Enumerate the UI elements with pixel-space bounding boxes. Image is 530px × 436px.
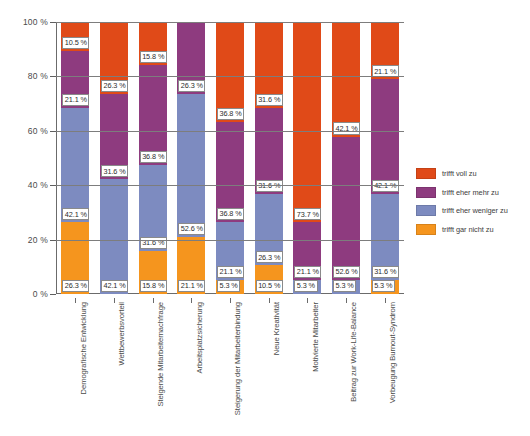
- bar-segment[interactable]: 42.1 %: [61, 108, 89, 223]
- y-tick-mark: [50, 76, 56, 77]
- bar-segment-value-label: 26.3 %: [62, 280, 89, 292]
- bar-segment[interactable]: 31.6 %: [255, 108, 283, 194]
- bar-segment-value-label: 31.6 %: [256, 94, 283, 106]
- bar-segment[interactable]: 31.6 %: [255, 22, 283, 108]
- bar-segment-value-label: 5.3 %: [217, 280, 240, 292]
- bar-segment-value-label: 31.6 %: [101, 165, 128, 177]
- bar-column[interactable]: 42.1 %52.6 %5.3 %: [332, 22, 360, 294]
- bar-segment[interactable]: 10.5 %: [255, 265, 283, 294]
- bar-segment-value-label: 15.8 %: [140, 280, 167, 292]
- bar-segment[interactable]: 36.8 %: [139, 65, 167, 165]
- bar-segment[interactable]: 26.3 %: [61, 222, 89, 294]
- x-axis-labels: Demografische EntwicklungWettbewerbsvort…: [56, 298, 404, 434]
- bars-layer: 10.5 %21.1 %42.1 %26.3 %26.3 %31.6 %42.1…: [56, 22, 404, 294]
- bar-segment-value-label: 10.5 %: [62, 37, 89, 49]
- bar-segment-value-label: 36.8 %: [140, 151, 167, 163]
- bar-segment[interactable]: 5.3 %: [293, 280, 321, 294]
- bar-segment[interactable]: 36.8 %: [216, 122, 244, 222]
- bar-segment-value-label: 21.1 %: [217, 266, 244, 278]
- bar-segment[interactable]: 42.1 %: [100, 179, 128, 294]
- bar-segment[interactable]: 42.1 %: [371, 79, 399, 194]
- bar-segment[interactable]: 21.1 %: [177, 237, 205, 294]
- bar-segment[interactable]: 26.3 %: [177, 22, 205, 94]
- bar-segment-value-label: 52.6 %: [178, 223, 205, 235]
- bar-segment[interactable]: 21.1 %: [371, 22, 399, 79]
- bar-segment[interactable]: 5.3 %: [332, 280, 360, 294]
- bar-segment[interactable]: 73.7 %: [293, 22, 321, 222]
- bar-segment[interactable]: 36.8 %: [216, 22, 244, 122]
- x-axis-category-label: Steigende Mitarbeiternachfrage: [156, 302, 165, 432]
- legend-color-swatch: [416, 168, 436, 179]
- y-axis-tick-label: 0 %: [33, 289, 48, 299]
- bar-segment-value-label: 5.3 %: [294, 280, 317, 292]
- bar-segment[interactable]: 21.1 %: [216, 222, 244, 279]
- bar-segment-value-label: 5.3 %: [333, 280, 356, 292]
- bar-segment[interactable]: 26.3 %: [255, 194, 283, 266]
- y-tick-mark: [50, 240, 56, 241]
- bar-segment[interactable]: 42.1 %: [332, 22, 360, 137]
- bar-segment[interactable]: 52.6 %: [332, 137, 360, 280]
- x-axis-category-label: Neue Kreativität: [272, 302, 281, 432]
- bar-segment[interactable]: 10.5 %: [61, 22, 89, 51]
- bar-segment[interactable]: 26.3 %: [100, 22, 128, 94]
- bar-segment[interactable]: 15.8 %: [139, 251, 167, 294]
- bar-segment-value-label: 31.6 %: [372, 266, 399, 278]
- bar-column[interactable]: 15.8 %36.8 %31.6 %15.8 %: [139, 22, 167, 294]
- bar-segment[interactable]: 31.6 %: [139, 165, 167, 251]
- bar-segment-value-label: 10.5 %: [256, 280, 283, 292]
- bar-segment-value-label: 42.1 %: [101, 280, 128, 292]
- bar-column[interactable]: 31.6 %31.6 %26.3 %10.5 %: [255, 22, 283, 294]
- bar-segment-value-label: 21.1 %: [62, 94, 89, 106]
- y-axis-tick-label: 40 %: [28, 180, 48, 190]
- legend-item[interactable]: trifft voll zu: [416, 168, 526, 179]
- legend-color-swatch: [416, 187, 436, 198]
- x-axis-category-label: Vorbeugung Burnout-Syndrom: [388, 302, 397, 432]
- bar-segment[interactable]: 31.6 %: [371, 194, 399, 280]
- bar-segment-value-label: 26.3 %: [101, 80, 128, 92]
- bar-segment[interactable]: 21.1 %: [293, 222, 321, 279]
- bar-column[interactable]: 21.1 %42.1 %31.6 %5.3 %: [371, 22, 399, 294]
- x-axis-category-label: Arbeitsplatzsicherung: [195, 302, 204, 432]
- bar-segment[interactable]: 15.8 %: [139, 22, 167, 65]
- plot-area: 10.5 %21.1 %42.1 %26.3 %26.3 %31.6 %42.1…: [56, 22, 404, 294]
- x-axis-tick-mark: [75, 298, 76, 303]
- bar-segment-value-label: 21.1 %: [294, 266, 321, 278]
- x-axis-tick-mark: [307, 298, 308, 303]
- bar-segment-value-label: 26.3 %: [178, 80, 205, 92]
- bar-column[interactable]: 26.3 %31.6 %42.1 %: [100, 22, 128, 294]
- gridline: [56, 22, 404, 23]
- y-tick-mark: [50, 22, 56, 23]
- x-axis-tick-mark: [114, 298, 115, 303]
- x-axis-tick-mark: [385, 298, 386, 303]
- y-axis-tick-label: 60 %: [28, 126, 48, 136]
- y-tick-mark: [50, 294, 56, 295]
- legend-item[interactable]: trifft eher mehr zu: [416, 187, 526, 198]
- bar-segment-value-label: 21.1 %: [178, 280, 205, 292]
- bar-segment-value-label: 26.3 %: [256, 251, 283, 263]
- bar-column[interactable]: 26.3 %52.6 %21.1 %: [177, 22, 205, 294]
- x-axis-category-label: Wettbewerbsvorteil: [117, 302, 126, 432]
- x-axis-category-label: Beitrag zur Work-Life-Balance: [349, 302, 358, 432]
- gridline: [56, 185, 404, 186]
- bar-segment[interactable]: 52.6 %: [177, 94, 205, 237]
- bar-segment-value-label: 5.3 %: [372, 280, 395, 292]
- bar-segment[interactable]: 31.6 %: [100, 94, 128, 180]
- bar-segment-value-label: 36.8 %: [217, 108, 244, 120]
- legend-item-label: trifft voll zu: [442, 169, 477, 178]
- bar-column[interactable]: 73.7 %21.1 %5.3 %: [293, 22, 321, 294]
- legend-item[interactable]: trifft eher weniger zu: [416, 205, 526, 216]
- x-axis-tick-mark: [153, 298, 154, 303]
- bar-segment[interactable]: 5.3 %: [371, 280, 399, 294]
- bar-column[interactable]: 10.5 %21.1 %42.1 %26.3 %: [61, 22, 89, 294]
- bar-segment[interactable]: 5.3 %: [216, 280, 244, 294]
- bar-segment-value-label: 42.1 %: [62, 208, 89, 220]
- x-axis-tick-mark: [191, 298, 192, 303]
- legend-item[interactable]: trifft gar nicht zu: [416, 224, 526, 235]
- x-axis-tick-mark: [230, 298, 231, 303]
- legend-item-label: trifft gar nicht zu: [442, 225, 494, 234]
- bar-column[interactable]: 36.8 %36.8 %21.1 %5.3 %: [216, 22, 244, 294]
- x-axis-category-label: Steigerung der Mitarbeiterbindung: [233, 302, 242, 432]
- legend-item-label: trifft eher weniger zu: [442, 206, 508, 215]
- y-axis-tick-label: 20 %: [28, 235, 48, 245]
- bar-segment[interactable]: 21.1 %: [61, 51, 89, 108]
